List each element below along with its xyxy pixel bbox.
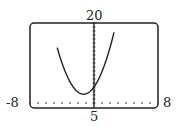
parabola-curve: [57, 32, 114, 94]
xmin-label: -8: [6, 96, 19, 109]
ymin-label: 5: [90, 110, 98, 123]
y-axis: [93, 23, 96, 108]
xmax-label: 8: [163, 96, 171, 109]
ymax-label: 20: [86, 9, 103, 22]
